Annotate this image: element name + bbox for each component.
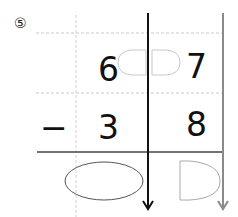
subtrahend-tens: 3 bbox=[98, 111, 119, 144]
borrow-box-left[interactable] bbox=[118, 50, 146, 75]
minus-sign: − bbox=[40, 111, 68, 144]
answer-box-tens[interactable] bbox=[65, 162, 143, 200]
minuend-tens: 6 bbox=[98, 53, 119, 86]
borrow-box-right[interactable] bbox=[152, 50, 180, 75]
answer-box-ones[interactable] bbox=[180, 161, 220, 200]
minuend-ones: 7 bbox=[186, 50, 207, 83]
problem-number: ⑤ bbox=[14, 16, 27, 30]
subtrahend-ones: 8 bbox=[186, 108, 207, 141]
